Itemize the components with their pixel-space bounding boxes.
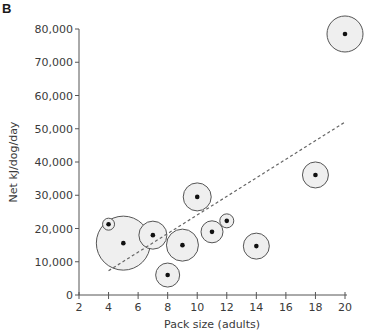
x-tick-label: 16: [279, 301, 293, 314]
x-tick-label: 20: [338, 301, 352, 314]
x-tick-label: 6: [135, 301, 142, 314]
data-point-dot: [151, 233, 156, 238]
y-tick-label: 30,000: [35, 189, 74, 202]
x-tick-label: 14: [249, 301, 263, 314]
y-tick-label: 20,000: [35, 223, 74, 236]
y-tick-label: 40,000: [35, 156, 74, 169]
y-tick-label: 80,000: [35, 23, 74, 36]
data-point-dot: [165, 273, 170, 278]
data-point-dot: [180, 243, 185, 248]
x-tick-label: 18: [308, 301, 322, 314]
x-tick-label: 10: [190, 301, 204, 314]
y-tick-label: 70,000: [35, 56, 74, 69]
data-point-dot: [224, 219, 229, 224]
y-tick-label: 50,000: [35, 123, 74, 136]
x-axis-title: Pack size (adults): [164, 318, 260, 331]
scatter-chart: 010,00020,00030,00040,00050,00060,00070,…: [0, 0, 365, 333]
data-point-dot: [313, 173, 318, 178]
x-tick-label: 4: [105, 301, 112, 314]
data-point-dot: [343, 32, 348, 37]
x-tick-label: 12: [220, 301, 234, 314]
y-tick-label: 10,000: [35, 256, 74, 269]
trend-line-dashed: [109, 122, 345, 271]
data-points: [96, 16, 363, 287]
y-tick-label: 60,000: [35, 90, 74, 103]
x-tick-label: 8: [164, 301, 171, 314]
data-point-dot: [210, 230, 215, 235]
y-axis-title: Net kJ/dog/day: [7, 121, 20, 202]
data-point-dot: [106, 222, 111, 227]
y-tick-label: 0: [66, 289, 73, 302]
trend-line: [109, 122, 345, 271]
data-point-dot: [121, 241, 126, 246]
x-tick-label: 2: [76, 301, 83, 314]
data-point-dot: [195, 195, 200, 200]
data-point-dot: [254, 244, 259, 249]
